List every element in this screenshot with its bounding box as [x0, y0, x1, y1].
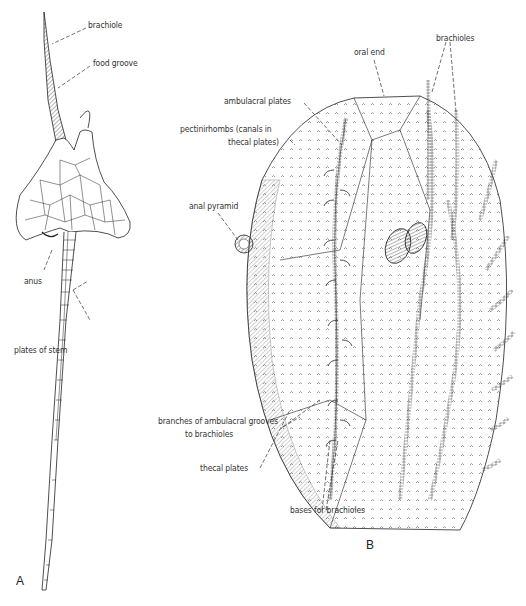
label-oral-end: oral end [354, 47, 385, 57]
label-ambulacral-plates: ambulacral plates [224, 96, 291, 106]
label-anal-pyramid: anal pyramid [189, 201, 238, 211]
panel-letter-a: A [16, 574, 24, 588]
label-pectinirhombs-line2: thecal plates) [228, 137, 279, 147]
brachiole-drawing [44, 12, 66, 142]
label-branches-line2: to brachioles [185, 429, 233, 439]
specimen-b [235, 80, 514, 530]
label-pectinirhombs-line1: pectinirhombs (canals in [180, 124, 272, 134]
figure-illustration [0, 0, 526, 606]
label-food-groove: food groove [93, 58, 138, 68]
label-branches-line1: branches of ambulacral grooves [158, 416, 278, 426]
panel-letter-b: B [366, 538, 374, 552]
label-thecal-plates: thecal plates [200, 463, 248, 473]
specimen-a [16, 12, 130, 590]
stem [42, 232, 76, 590]
label-brachiole: brachiole [88, 20, 122, 30]
label-brachioles: brachioles [436, 33, 474, 43]
label-plates-of-stem: plates of stem [14, 345, 67, 355]
label-anus: anus [24, 276, 42, 286]
label-bases-for-brachioles: bases for brachioles [290, 505, 365, 515]
